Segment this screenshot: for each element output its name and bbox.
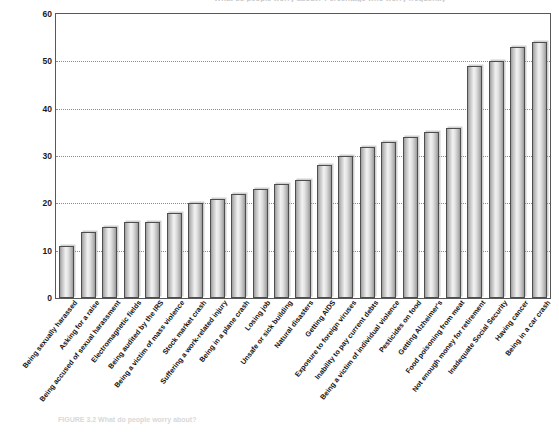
y-axis-tick-label: 50 [28, 57, 52, 66]
y-axis-tick-label: 40 [28, 104, 52, 113]
bar [489, 61, 504, 298]
bar [381, 142, 396, 298]
y-axis-tick-label: 30 [28, 152, 52, 161]
figure-number: FIGURE 3.2 [58, 416, 96, 423]
bar [360, 147, 375, 298]
bar [231, 194, 246, 298]
x-axis-labels: Being sexually harassedAsking for a rais… [0, 299, 559, 411]
bar [145, 222, 160, 298]
bar [253, 189, 268, 298]
bar [532, 42, 547, 298]
bar [274, 184, 289, 298]
bar [510, 47, 525, 298]
bar-series [56, 14, 550, 298]
bar [338, 156, 353, 298]
bar [102, 227, 117, 298]
chart-title: What do people worry about? Percentage w… [120, 0, 540, 2]
y-axis-tick-label: 20 [28, 199, 52, 208]
bar [167, 213, 182, 298]
bar [317, 165, 332, 298]
figure-container: What do people worry about? Percentage w… [0, 0, 559, 432]
bar [295, 180, 310, 298]
bar [446, 128, 461, 298]
y-axis: 0102030405060 [28, 13, 52, 299]
bar [210, 199, 225, 298]
y-axis-tick-label: 10 [28, 246, 52, 255]
bar [188, 203, 203, 298]
bar [59, 246, 74, 298]
bar [467, 66, 482, 298]
bar [124, 222, 139, 298]
bar [81, 232, 96, 298]
bar [403, 137, 418, 298]
bar [424, 132, 439, 298]
figure-caption: FIGURE 3.2 What do people worry about? [58, 416, 196, 423]
y-axis-tick-label: 60 [28, 10, 52, 19]
figure-caption-text: What do people worry about? [98, 416, 196, 423]
